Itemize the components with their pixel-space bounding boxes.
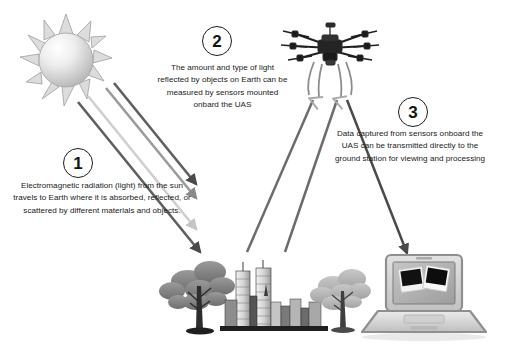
tree-left bbox=[159, 261, 235, 334]
step-caption-3: Data captured from sensors onboard the U… bbox=[330, 128, 490, 165]
sun-illustration bbox=[20, 14, 112, 106]
city-and-trees-illustration bbox=[159, 260, 371, 334]
reflected-light-arrow bbox=[285, 100, 337, 252]
step-number-2: 2 bbox=[202, 26, 232, 56]
drone-illustration bbox=[281, 23, 379, 97]
reflected-light-arrow-group bbox=[247, 100, 337, 252]
laptop-illustration bbox=[362, 255, 486, 341]
sunlight-ray-arrow bbox=[78, 102, 200, 252]
data-transmission-arrow bbox=[347, 100, 407, 253]
diagram-canvas: 1 2 3 Electromagnetic radiation (light) … bbox=[0, 0, 512, 349]
step-number-3: 3 bbox=[398, 97, 428, 127]
step-number-1: 1 bbox=[63, 148, 93, 178]
step-caption-1: Electromagnetic radiation (light) from t… bbox=[12, 180, 192, 217]
step-caption-2: The amount and type of light reflected b… bbox=[155, 62, 290, 111]
reflected-light-arrow bbox=[247, 100, 313, 252]
